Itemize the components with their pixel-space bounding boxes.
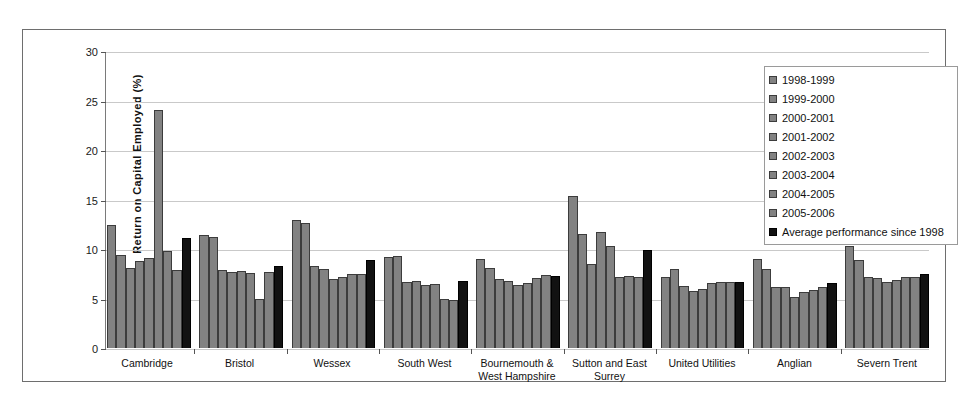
- bar: [568, 196, 577, 348]
- bar: [523, 283, 532, 348]
- bar: [716, 282, 725, 348]
- series-swatch: [769, 152, 777, 160]
- bar: [726, 282, 735, 348]
- bar: [513, 285, 522, 348]
- bar: [771, 287, 780, 348]
- y-tick-mark-10: [101, 250, 106, 251]
- y-tick-label-25: 25: [86, 96, 98, 108]
- y-tick-mark-0: [101, 349, 106, 350]
- y-tick-label-5: 5: [92, 294, 98, 306]
- x-label-gap: [559, 352, 567, 384]
- bar: [679, 286, 688, 348]
- legend-item: 2002-2003: [769, 146, 953, 165]
- bar: [495, 279, 504, 348]
- legend-item-label: 1998-1999: [782, 74, 835, 86]
- bar: [781, 287, 790, 348]
- x-label-gap: [744, 352, 752, 384]
- bar: [504, 281, 513, 348]
- series-swatch: [769, 190, 777, 198]
- bar: [264, 272, 273, 348]
- series-swatch: [769, 76, 777, 84]
- legend-item-label: Average performance since 1998: [782, 226, 944, 238]
- legend-item-label: 2001-2002: [782, 131, 835, 143]
- bar-group-south-west: [384, 52, 468, 348]
- bar: [209, 237, 218, 348]
- x-axis-label: United Utilities: [660, 352, 744, 384]
- x-axis-label: Bristol: [197, 352, 281, 384]
- x-axis-label-line: Bournemouth &: [475, 357, 559, 370]
- legend-item-label: 1999-2000: [782, 93, 835, 105]
- bar: [762, 269, 771, 348]
- x-axis-label: Cambridge: [105, 352, 189, 384]
- bar: [329, 279, 338, 348]
- bar: [384, 257, 393, 348]
- bar: [458, 281, 467, 348]
- bar: [606, 246, 615, 348]
- legend-item-label: 2005-2006: [782, 207, 835, 219]
- bar: [578, 234, 587, 348]
- x-axis-label: Wessex: [290, 352, 374, 384]
- series-swatch: [769, 95, 777, 103]
- bar: [421, 285, 430, 348]
- bar: [347, 274, 356, 348]
- bar: [402, 282, 411, 348]
- bar: [274, 266, 283, 348]
- bar-group-united-utilities: [661, 52, 745, 348]
- series-swatch: [769, 133, 777, 141]
- x-label-gap: [652, 352, 660, 384]
- bar: [873, 278, 882, 348]
- x-label-gap: [189, 352, 197, 384]
- bar: [707, 283, 716, 348]
- bar: [541, 275, 550, 348]
- bar: [661, 277, 670, 348]
- bar: [587, 264, 596, 348]
- bar: [689, 291, 698, 348]
- legend-item: 2000-2001: [769, 108, 953, 127]
- bar: [485, 268, 494, 348]
- y-tick-label-15: 15: [86, 195, 98, 207]
- bar-group-bristol: [199, 52, 283, 348]
- legend-item-label: 2000-2001: [782, 112, 835, 124]
- legend-item: Average performance since 1998: [769, 222, 953, 241]
- series-swatch: [769, 209, 777, 217]
- x-axis-labels: CambridgeBristolWessexSouth WestBournemo…: [105, 352, 929, 384]
- bar: [246, 273, 255, 348]
- x-axis-label-line: United Utilities: [660, 357, 744, 370]
- bar: [910, 277, 919, 348]
- bar: [301, 223, 310, 348]
- x-label-gap: [467, 352, 475, 384]
- bar: [412, 281, 421, 348]
- bar: [753, 259, 762, 348]
- bar: [901, 277, 910, 348]
- bar: [882, 282, 891, 348]
- y-tick-mark-20: [101, 151, 106, 152]
- bar-group-cambridge: [107, 52, 191, 348]
- bar: [532, 278, 541, 348]
- bar: [827, 283, 836, 348]
- bar: [310, 266, 319, 348]
- bar: [144, 258, 153, 348]
- y-tick-mark-25: [101, 102, 106, 103]
- legend-item: 1998-1999: [769, 70, 953, 89]
- bar: [440, 299, 449, 348]
- legend-item: 2005-2006: [769, 203, 953, 222]
- bar: [227, 272, 236, 348]
- x-axis-label-line: Bristol: [197, 357, 281, 370]
- bar-group-sutton-and-east-surrey: [568, 52, 652, 348]
- chart-legend: 1998-19991999-20002000-20012001-20022002…: [764, 66, 958, 245]
- y-tick-label-30: 30: [86, 46, 98, 58]
- bar: [255, 299, 264, 348]
- bar-group-bournemouth-west-hampshire: [476, 52, 560, 348]
- legend-item: 2001-2002: [769, 127, 953, 146]
- bar: [799, 292, 808, 348]
- x-label-gap: [282, 352, 290, 384]
- x-axis-label: Bournemouth &West Hampshire: [475, 352, 559, 384]
- y-tick-mark-5: [101, 300, 106, 301]
- series-swatch: [769, 171, 777, 179]
- x-axis-label-line: Wessex: [290, 357, 374, 370]
- bar: [864, 277, 873, 348]
- bar: [920, 274, 929, 348]
- bar: [892, 280, 901, 348]
- x-label-gap: [374, 352, 382, 384]
- x-axis-label-line: Surrey: [567, 370, 651, 383]
